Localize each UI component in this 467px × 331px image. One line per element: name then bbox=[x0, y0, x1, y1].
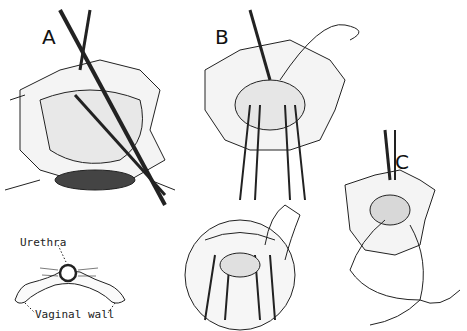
vaginal-wall-label: Vaginal wall bbox=[35, 308, 114, 321]
panel-a-drawing bbox=[5, 10, 175, 205]
urethra-label: Urethra bbox=[20, 236, 66, 249]
inset-circle-drawing bbox=[185, 205, 300, 330]
panel-label-c: C bbox=[395, 150, 409, 174]
panel-label-a: A bbox=[42, 25, 56, 49]
panel-label-b: B bbox=[215, 25, 229, 49]
urethra-diagram bbox=[15, 245, 125, 313]
